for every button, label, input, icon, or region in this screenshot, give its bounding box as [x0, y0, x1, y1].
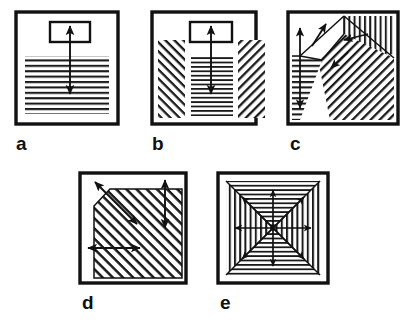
panel-label-b: b: [152, 134, 164, 153]
panel-d: [80, 173, 186, 283]
panel-label-c: c: [290, 134, 301, 153]
panel-e: [218, 173, 328, 283]
panel-b-left-diagonal-hatch: [158, 40, 185, 118]
panel-a-horizontal-hatch: [25, 56, 109, 114]
panel-a: [16, 12, 118, 124]
panel-b: [152, 12, 265, 124]
panel-label-e: e: [220, 293, 231, 312]
panel-label-a: a: [16, 134, 27, 153]
figure-canvas: [0, 0, 412, 324]
panel-label-d: d: [82, 293, 94, 312]
panel-d-main-diagonal-hatch: [94, 189, 182, 278]
panel-e-arrows: [235, 190, 311, 266]
panel-b-center-horizontal-hatch: [191, 56, 233, 116]
panel-b-right-diagonal-hatch: [238, 40, 265, 118]
panel-c: [288, 12, 398, 124]
